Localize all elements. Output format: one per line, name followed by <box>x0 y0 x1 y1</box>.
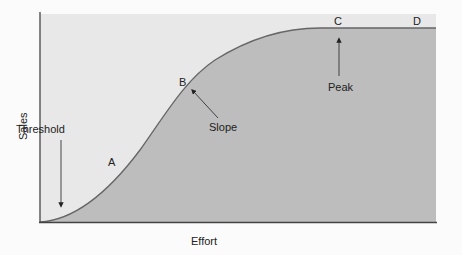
point-c-label: C <box>334 15 342 27</box>
x-axis-label: Effort <box>191 235 217 247</box>
sales-response-diagram: Threshold A B Slope C D Peak Effort Sale… <box>0 0 462 255</box>
slope-label: Slope <box>209 121 237 133</box>
point-b-label: B <box>179 76 186 88</box>
point-a-label: A <box>108 156 116 168</box>
point-d-label: D <box>413 15 421 27</box>
peak-label: Peak <box>328 81 354 93</box>
y-axis-label: Sales <box>17 112 29 140</box>
